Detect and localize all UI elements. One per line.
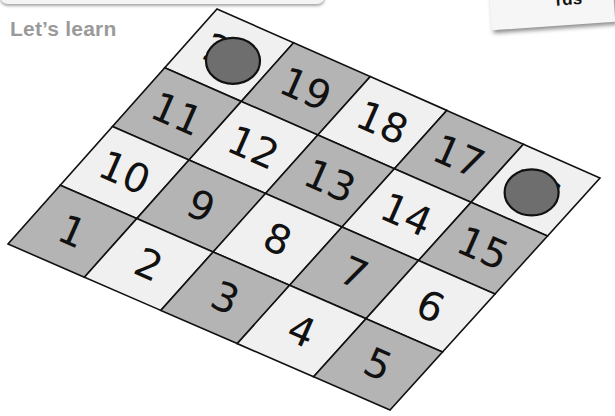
counter-on-11[interactable] bbox=[206, 38, 260, 84]
counter-on-16[interactable] bbox=[505, 169, 559, 215]
